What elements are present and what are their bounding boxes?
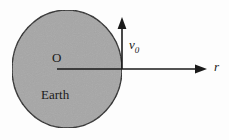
earth-label: Earth xyxy=(41,88,69,101)
origin-label: O xyxy=(52,51,61,64)
diagram-canvas xyxy=(0,0,229,140)
velocity-label-subscript: 0 xyxy=(135,45,140,55)
velocity-vector-arrowhead xyxy=(118,17,127,29)
physics-diagram-earth-radial-axis: O Earth v0 r xyxy=(0,0,229,140)
radial-axis-label: r xyxy=(214,60,219,73)
radial-axis-arrowhead xyxy=(195,65,207,74)
velocity-label: v0 xyxy=(129,38,139,55)
